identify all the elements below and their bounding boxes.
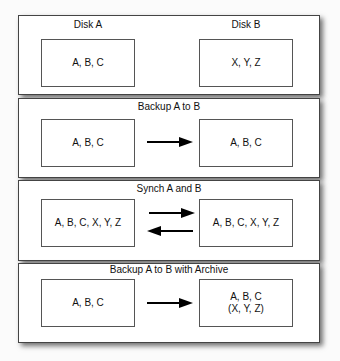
disk-b-label: Disk B [199, 19, 293, 30]
right-arrow-icon [145, 298, 193, 308]
panel-title-backup-archive: Backup A to B with Archive [19, 264, 319, 275]
disk-b-contents: A, B, C, X, Y, Z [213, 217, 279, 229]
panel-backup-archive: Backup A to B with Archive A, B, C A, B,… [18, 263, 320, 343]
left-arrow-icon [147, 226, 195, 236]
panel-initial-state: Disk A Disk B A, B, C X, Y, Z [18, 15, 320, 95]
disk-b-contents: X, Y, Z [231, 57, 260, 69]
disk-a-label: Disk A [41, 19, 135, 30]
right-arrow-icon [145, 137, 193, 147]
panel-synch: Synch A and B A, B, C, X, Y, Z A, B, C, … [18, 180, 320, 261]
disk-b-contents-archived: (X, Y, Z) [228, 303, 264, 315]
disk-a-box: A, B, C, X, Y, Z [41, 199, 135, 247]
disk-a-contents: A, B, C [72, 297, 104, 309]
disk-a-contents: A, B, C [72, 137, 104, 149]
disk-a-box: A, B, C [41, 119, 135, 167]
disk-b-contents-current: A, B, C [230, 291, 262, 303]
disk-b-box: A, B, C (X, Y, Z) [199, 279, 293, 327]
disk-b-box: X, Y, Z [199, 39, 293, 87]
disk-b-contents: A, B, C [230, 137, 262, 149]
right-arrow-icon [147, 208, 195, 218]
disk-b-box: A, B, C, X, Y, Z [199, 199, 293, 247]
panel-title-synch: Synch A and B [19, 183, 319, 194]
panel-backup: Backup A to B A, B, C A, B, C [18, 98, 320, 178]
disk-a-contents: A, B, C [72, 57, 104, 69]
disk-a-box: A, B, C [41, 279, 135, 327]
disk-a-contents: A, B, C, X, Y, Z [55, 217, 121, 229]
disk-a-box: A, B, C [41, 39, 135, 87]
disk-b-box: A, B, C [199, 119, 293, 167]
panel-title-backup: Backup A to B [19, 101, 319, 112]
